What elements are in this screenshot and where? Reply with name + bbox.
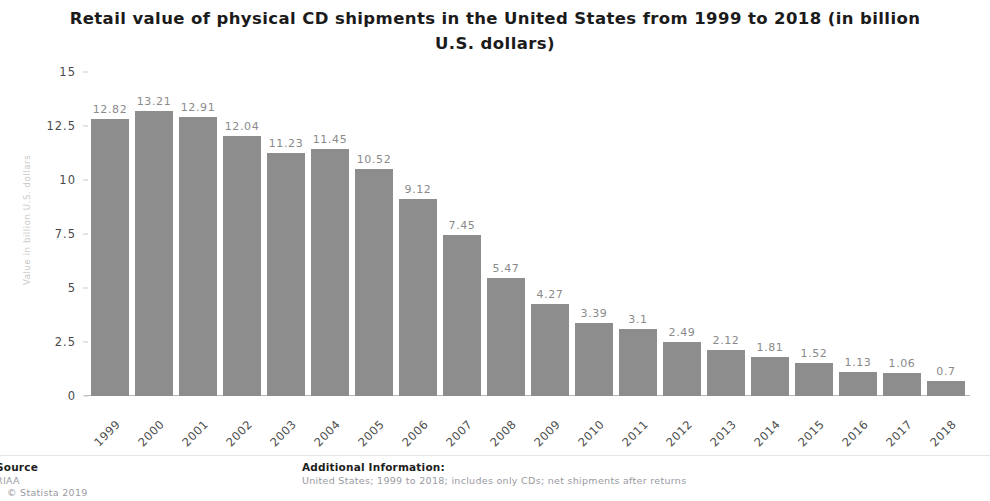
x-tick-label: 2014 xyxy=(751,417,783,449)
chart-footer: Source RIAA © Statista 2019 Additional I… xyxy=(0,455,990,501)
chart-title: Retail value of physical CD shipments in… xyxy=(60,6,930,56)
x-tick-label: 2002 xyxy=(223,417,255,449)
bar-value-label: 3.39 xyxy=(581,307,608,320)
y-tick-label: 0 xyxy=(68,389,76,403)
source-name: RIAA xyxy=(0,475,88,487)
bar-value-label: 13.21 xyxy=(137,95,172,108)
bar-value-label: 1.81 xyxy=(757,341,784,354)
bar-value-label: 12.91 xyxy=(181,101,216,114)
bar-slot[interactable]: 1.13 xyxy=(836,72,880,396)
x-tick-label: 2003 xyxy=(267,417,299,449)
x-tick-label: 2012 xyxy=(663,417,695,449)
chart-page: Retail value of physical CD shipments in… xyxy=(0,0,990,501)
bar[interactable] xyxy=(795,363,833,396)
bar-slot[interactable]: 1.81 xyxy=(748,72,792,396)
bar-value-label: 10.52 xyxy=(357,153,392,166)
x-tick-label: 2015 xyxy=(795,417,827,449)
bar-value-label: 7.45 xyxy=(449,219,476,232)
bar-slot[interactable]: 2.12 xyxy=(704,72,748,396)
bar-slot[interactable]: 7.45 xyxy=(440,72,484,396)
x-tick-label: 2018 xyxy=(927,417,959,449)
y-gridline: 0 xyxy=(88,396,968,397)
x-tick-label: 2016 xyxy=(839,417,871,449)
x-tick-label: 2017 xyxy=(883,417,915,449)
x-tick-label: 2001 xyxy=(179,417,211,449)
y-axis-title: Value in billion U.S. dollars xyxy=(22,155,32,285)
bar[interactable] xyxy=(443,235,481,396)
bar-slot[interactable]: 10.52 xyxy=(352,72,396,396)
bar-value-label: 11.23 xyxy=(269,137,304,150)
bar-value-label: 12.82 xyxy=(93,103,128,116)
bar-value-label: 5.47 xyxy=(493,262,520,275)
bar[interactable] xyxy=(839,372,877,396)
x-tick-label: 2000 xyxy=(135,417,167,449)
bar[interactable] xyxy=(355,169,393,396)
bar[interactable] xyxy=(267,153,305,396)
x-tick-label: 2005 xyxy=(355,417,387,449)
bar-value-label: 1.13 xyxy=(845,356,872,369)
x-tick-label: 2009 xyxy=(531,417,563,449)
x-tick-label: 2007 xyxy=(443,417,475,449)
bar-slot[interactable]: 1.52 xyxy=(792,72,836,396)
source-heading: Source xyxy=(0,461,88,473)
bar[interactable] xyxy=(223,136,261,396)
bar[interactable] xyxy=(399,199,437,396)
bar[interactable] xyxy=(927,381,965,396)
bar-value-label: 11.45 xyxy=(313,133,348,146)
x-tick-label: 2010 xyxy=(575,417,607,449)
bar-slot[interactable]: 12.82 xyxy=(88,72,132,396)
additional-information-heading: Additional Information: xyxy=(302,461,686,473)
x-tick-label: 2011 xyxy=(619,417,651,449)
bar-value-label: 1.06 xyxy=(889,357,916,370)
bar[interactable] xyxy=(575,323,613,396)
x-tick-label: 1999 xyxy=(91,417,123,449)
bar[interactable] xyxy=(619,329,657,396)
bar[interactable] xyxy=(311,149,349,396)
bar-slot[interactable]: 3.39 xyxy=(572,72,616,396)
y-tick-label: 10 xyxy=(59,173,76,187)
y-tick-label: 2.5 xyxy=(55,335,76,349)
bar-value-label: 9.12 xyxy=(405,183,432,196)
bar[interactable] xyxy=(531,304,569,396)
plot-area: 02.557.51012.515 12.8213.2112.9112.0411.… xyxy=(88,72,968,396)
bar[interactable] xyxy=(751,357,789,396)
y-tick-label: 7.5 xyxy=(55,227,76,241)
bar-slot[interactable]: 9.12 xyxy=(396,72,440,396)
bar-value-label: 2.49 xyxy=(669,326,696,339)
bar-value-label: 2.12 xyxy=(713,334,740,347)
x-tick-label: 2004 xyxy=(311,417,343,449)
source-block: Source RIAA © Statista 2019 xyxy=(0,461,88,499)
bar[interactable] xyxy=(487,278,525,396)
bar[interactable] xyxy=(135,111,173,396)
y-tick-label: 15 xyxy=(59,65,76,79)
bar[interactable] xyxy=(91,119,129,396)
x-tick-label: 2006 xyxy=(399,417,431,449)
bar[interactable] xyxy=(179,117,217,396)
bar-slot[interactable]: 11.23 xyxy=(264,72,308,396)
bar-slot[interactable]: 3.1 xyxy=(616,72,660,396)
additional-information-text: United States; 1999 to 2018; includes on… xyxy=(302,475,686,487)
bar-value-label: 0.7 xyxy=(936,365,955,378)
footer-divider xyxy=(0,455,990,456)
x-tick-label: 2008 xyxy=(487,417,519,449)
x-tick-label: 2013 xyxy=(707,417,739,449)
bar-slot[interactable]: 12.91 xyxy=(176,72,220,396)
bar-slot[interactable]: 13.21 xyxy=(132,72,176,396)
y-tick-label: 5 xyxy=(68,281,76,295)
bar-slot[interactable]: 1.06 xyxy=(880,72,924,396)
bar-slot[interactable]: 4.27 xyxy=(528,72,572,396)
bar-value-label: 4.27 xyxy=(537,288,564,301)
bar-value-label: 3.1 xyxy=(628,313,647,326)
additional-information-block: Additional Information: United States; 1… xyxy=(302,461,686,487)
y-tick-label: 12.5 xyxy=(46,119,76,133)
bar-slot[interactable]: 11.45 xyxy=(308,72,352,396)
bar-slot[interactable]: 0.7 xyxy=(924,72,968,396)
bar-slot[interactable]: 2.49 xyxy=(660,72,704,396)
bar[interactable] xyxy=(663,342,701,396)
bar-slot[interactable]: 12.04 xyxy=(220,72,264,396)
bar-value-label: 1.52 xyxy=(801,347,828,360)
bar-slot[interactable]: 5.47 xyxy=(484,72,528,396)
bar[interactable] xyxy=(707,350,745,396)
source-copyright: © Statista 2019 xyxy=(0,487,88,499)
bar[interactable] xyxy=(883,373,921,396)
